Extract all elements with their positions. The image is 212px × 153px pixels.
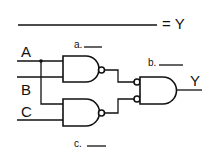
input-label-a: A [21, 43, 31, 60]
annotation-a: a. [74, 39, 82, 50]
nand-gate-1 [63, 56, 99, 82]
logic-circuit-diagram: = Y A B C Y a. b. c. [0, 0, 212, 153]
annotation-c: c. [74, 138, 82, 149]
equation-equals-y: = Y [162, 15, 185, 32]
nand-gate-2 [63, 99, 99, 126]
inverter-bubble-2 [99, 110, 105, 116]
and-gate-3 [140, 77, 177, 104]
annotation-b: b. [148, 57, 156, 68]
wire-gate1-to-gate3 [105, 70, 135, 82]
junction-dot [39, 59, 43, 63]
inverter-bubble-1 [99, 67, 105, 73]
input-label-c: C [21, 103, 32, 120]
input-bubble-2 [134, 96, 140, 102]
wire-a-branch [41, 61, 63, 104]
output-label-y: Y [190, 72, 200, 89]
input-bubble-1 [134, 79, 140, 85]
input-label-b: B [21, 81, 31, 98]
wire-gate2-to-gate3 [105, 99, 135, 113]
